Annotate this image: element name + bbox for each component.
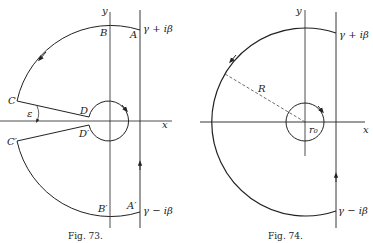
small-circle-arrow-icon — [122, 105, 126, 110]
upper-arc — [17, 25, 140, 101]
lower-arc — [17, 141, 140, 217]
x-axis-label: x — [162, 119, 168, 130]
radius-line — [225, 74, 305, 122]
label-A: A — [129, 29, 137, 40]
label-R: R — [257, 83, 266, 94]
y-axis-label: y — [101, 5, 108, 16]
figure-74: y x γ + iβ R r₀ γ − iβ Fig. 74. — [200, 5, 369, 241]
figure-73: y x B A γ + iβ C D ε D′ C′ B′ A′ γ − iβ … — [0, 5, 173, 241]
label-B: B — [99, 27, 107, 38]
label-gamma-plus: γ + iβ — [143, 23, 173, 34]
caption-fig-73: Fig. 73. — [68, 231, 103, 241]
label-D-prime: D′ — [78, 128, 90, 139]
caption-fig-74: Fig. 74. — [268, 231, 303, 241]
label-C-prime: C′ — [7, 136, 18, 147]
figures-canvas: y x B A γ + iβ C D ε D′ C′ B′ A′ γ − iβ … — [0, 0, 373, 243]
label-gamma-minus: γ − iβ — [338, 205, 368, 216]
epsilon-angle — [37, 106, 39, 121]
label-C: C — [8, 95, 16, 106]
label-D: D — [79, 105, 88, 116]
label-r0: r₀ — [309, 124, 318, 135]
label-B-prime: B′ — [97, 203, 108, 214]
x-axis-label: x — [363, 124, 369, 135]
label-gamma-minus: γ − iβ — [143, 205, 173, 216]
label-A-prime: A′ — [126, 200, 137, 211]
label-epsilon: ε — [27, 108, 32, 119]
label-gamma-plus: γ + iβ — [339, 29, 369, 40]
y-axis-label: y — [295, 5, 302, 16]
